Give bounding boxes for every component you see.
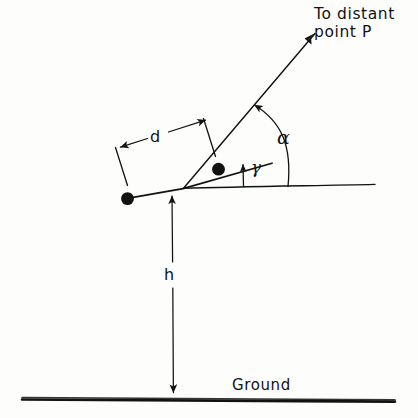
label-height-h: h [164,266,175,285]
label-angle-gamma: γ [251,157,262,177]
label-ground: Ground [232,377,291,395]
ground-line [22,398,395,402]
label-distant-point: To distantpoint P [314,5,395,42]
label-distant-point-line1: To distant [314,5,395,23]
label-distant-point-line2: point P [314,23,372,41]
dimension-line-h [172,196,173,393]
label-angle-alpha: α [277,126,290,148]
ray-to-distant-point [184,34,316,189]
dimension-line-d [116,119,216,186]
station-marker-near [121,192,134,205]
label-distance-d: d [150,128,161,147]
station-marker-far [212,163,225,176]
angle-indicator-gamma [243,165,244,187]
horizontal-reference-line [183,184,375,188]
diagram-canvas: To distantpoint P Ground d h α γ [0,0,418,418]
diagram-drawing [0,0,418,418]
